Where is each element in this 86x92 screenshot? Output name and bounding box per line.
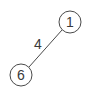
node-1: 1 (59, 11, 81, 33)
edge-weight-label: 4 (34, 36, 42, 52)
node-6-label: 6 (17, 67, 25, 83)
graph-diagram: 4 1 6 (0, 0, 86, 92)
node-6: 6 (10, 64, 32, 86)
node-1-label: 1 (66, 14, 74, 30)
